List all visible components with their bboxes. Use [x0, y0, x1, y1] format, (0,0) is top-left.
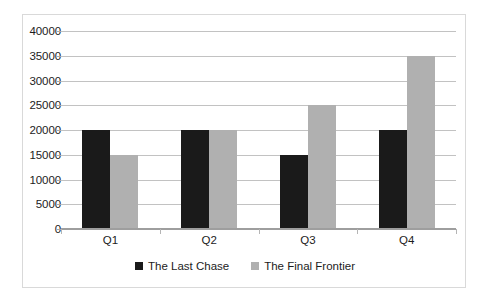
chart-container: 4000035000300002500020000150001000050000…: [22, 14, 466, 288]
legend-label: The Final Frontier: [264, 260, 355, 272]
x-axis-tick-label: Q3: [300, 234, 315, 246]
bar-q3-series-0: [280, 155, 308, 229]
legend-item: The Last Chase: [135, 260, 229, 272]
plot-area: [61, 31, 456, 229]
x-axis-tick-mark: [456, 229, 457, 234]
y-axis-label-group: 4000035000300002500020000150001000050000: [23, 15, 61, 289]
legend-swatch-icon: [251, 262, 259, 270]
bar-q4-series-0: [379, 130, 407, 229]
x-axis-tick-label: Q4: [399, 234, 414, 246]
bar-q2-series-1: [209, 130, 237, 229]
chart-legend: The Last ChaseThe Final Frontier: [23, 260, 467, 272]
bar-q2-series-0: [181, 130, 209, 229]
plot-region: 4000035000300002500020000150001000050000…: [23, 15, 467, 289]
legend-item: The Final Frontier: [251, 260, 355, 272]
bar-q4-series-1: [407, 56, 435, 229]
x-axis-tick-label: Q2: [201, 234, 216, 246]
bar-q3-series-1: [308, 105, 336, 229]
bar-group: [357, 31, 456, 229]
bar-group: [160, 31, 259, 229]
bar-series-layer: [61, 31, 456, 229]
legend-label: The Last Chase: [148, 260, 229, 272]
x-axis-label-group: Q1Q2Q3Q4: [61, 234, 456, 254]
bar-q1-series-1: [110, 155, 138, 229]
bar-group: [259, 31, 358, 229]
bar-q1-series-0: [82, 130, 110, 229]
bar-group: [61, 31, 160, 229]
legend-swatch-icon: [135, 262, 143, 270]
x-axis-tick-label: Q1: [103, 234, 118, 246]
